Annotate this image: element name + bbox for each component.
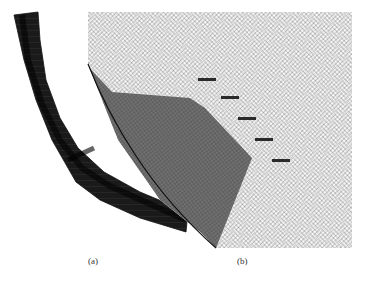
panel-label-b: (b): [237, 256, 248, 266]
marker-5: [272, 159, 290, 162]
marker-1: [198, 78, 216, 81]
panel-label-a: (a): [88, 256, 98, 266]
marker-3: [238, 117, 256, 120]
marker-2: [221, 96, 239, 99]
panel-b-mesh: [86, 10, 356, 250]
mesh-figure-svg: [0, 0, 367, 281]
figure: (a) (b): [0, 0, 367, 281]
marker-4: [255, 138, 273, 141]
